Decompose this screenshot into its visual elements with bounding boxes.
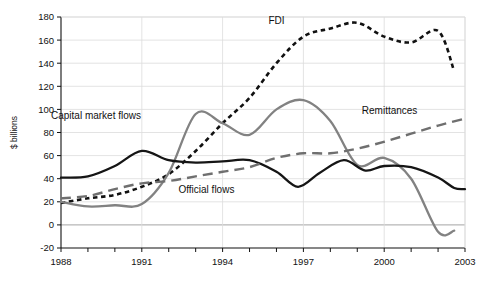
- x-tick-label-2003: 2003: [454, 256, 475, 267]
- series-lines: [61, 23, 465, 236]
- x-tick-label-1991: 1991: [131, 256, 152, 267]
- series-line-remittances: [61, 119, 465, 199]
- y-tick-label-140: 140: [38, 58, 54, 69]
- series-label-FDI: FDI: [268, 15, 284, 26]
- y-tick-label-60: 60: [43, 150, 54, 161]
- gridlines: [61, 17, 465, 248]
- y-tick-label-0: 0: [49, 219, 54, 230]
- series-label-official-flows: Official flows: [178, 184, 234, 195]
- x-tick-label-1994: 1994: [212, 256, 233, 267]
- x-tick-label-2000: 2000: [374, 256, 395, 267]
- y-axis-label: $ billions: [9, 116, 19, 149]
- y-tick-label-80: 80: [43, 127, 54, 138]
- y-tick-label--20: -20: [40, 242, 54, 253]
- x-tick-label-1997: 1997: [293, 256, 314, 267]
- chart-svg: -200204060801001201401601801988199119941…: [0, 0, 488, 285]
- axes: [57, 17, 465, 252]
- y-tick-label-180: 180: [38, 11, 54, 22]
- x-tick-label-1988: 1988: [50, 256, 71, 267]
- tick-labels: -200204060801001201401601801988199119941…: [38, 11, 475, 267]
- y-tick-label-120: 120: [38, 81, 54, 92]
- series-annotations: FDICapital market flowsOfficial flowsRem…: [51, 15, 417, 195]
- y-tick-label-20: 20: [43, 196, 54, 207]
- chart-figure: -200204060801001201401601801988199119941…: [0, 0, 488, 285]
- series-label-capital-market-flows: Capital market flows: [51, 110, 141, 121]
- series-label-remittances: Remittances: [362, 105, 418, 116]
- y-tick-label-40: 40: [43, 173, 54, 184]
- y-tick-label-160: 160: [38, 35, 54, 46]
